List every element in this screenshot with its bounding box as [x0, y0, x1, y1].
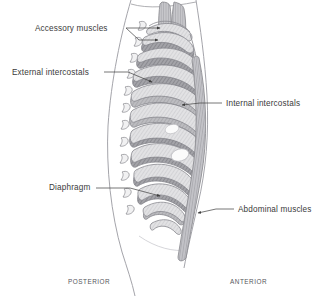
spinous-process — [120, 137, 128, 146]
spinous-process — [122, 103, 130, 112]
label-internal-intercostals: Internal intercostals — [226, 99, 300, 108]
figure-canvas: Accessory muscles External intercostals … — [0, 0, 321, 298]
leader-abdominal-muscles — [198, 209, 234, 213]
spinous-process — [138, 21, 146, 30]
label-diaphragm: Diaphragm — [49, 183, 90, 192]
spinous-process — [121, 171, 129, 180]
spinous-process — [121, 120, 129, 129]
label-abdominal-muscles: Abdominal muscles — [238, 205, 312, 214]
label-anterior: ANTERIOR — [230, 278, 267, 285]
label-external-intercostals: External intercostals — [12, 68, 89, 77]
posterior-contour — [108, 0, 135, 296]
label-accessory-muscles: Accessory muscles — [35, 24, 108, 33]
spinous-process — [126, 205, 134, 214]
spinous-process — [124, 86, 132, 95]
spinous-process — [120, 154, 128, 163]
label-posterior: POSTERIOR — [68, 278, 110, 285]
thorax-respiration-diagram — [0, 0, 321, 298]
spinous-process — [123, 188, 131, 197]
